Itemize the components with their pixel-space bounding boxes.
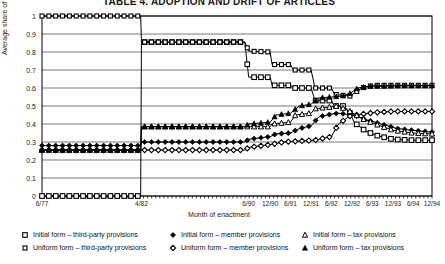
data-point-marker [142, 148, 147, 153]
data-point-marker [252, 136, 257, 141]
data-point-marker [258, 143, 263, 148]
data-point-marker [299, 138, 304, 143]
data-point-marker [293, 86, 298, 91]
legend-item[interactable]: Uniform form – third-party provisions [20, 241, 146, 254]
data-point-marker [23, 232, 28, 237]
data-point-marker [135, 194, 140, 199]
data-point-marker [302, 232, 307, 237]
data-point-marker [314, 86, 318, 90]
data-point-marker [218, 40, 222, 44]
data-point-marker [129, 194, 134, 199]
legend-item[interactable]: Initial form – member provisions [168, 228, 288, 241]
data-point-marker [423, 138, 428, 143]
legend-item[interactable]: Uniform form – tax provisions [300, 241, 404, 254]
data-point-marker [211, 40, 215, 44]
legend-column: Initial form – member provisionsUniform … [168, 228, 288, 254]
data-point-marker [245, 46, 249, 50]
data-point-marker [217, 148, 222, 153]
chart-legend: Initial form – third-party provisionsUni… [0, 228, 438, 260]
data-point-marker [347, 91, 352, 96]
data-point-marker [402, 138, 407, 143]
data-point-marker [149, 139, 154, 144]
data-point-marker [169, 139, 174, 144]
data-point-marker [108, 194, 113, 199]
data-point-marker [190, 139, 195, 144]
data-point-marker [176, 139, 181, 144]
series-line [42, 16, 432, 96]
data-point-marker [54, 14, 58, 18]
data-point-marker [313, 106, 318, 111]
data-point-marker [210, 139, 215, 144]
data-point-marker [149, 148, 154, 153]
data-point-marker [375, 133, 380, 138]
data-point-marker [299, 111, 304, 116]
data-point-marker [265, 75, 270, 80]
data-point-marker [279, 120, 284, 125]
data-point-marker [245, 62, 250, 67]
data-point-marker [238, 139, 243, 144]
data-point-marker [156, 148, 161, 153]
data-point-marker [252, 49, 256, 53]
legend-column: Initial form – tax provisionsUniform for… [300, 228, 404, 254]
data-point-marker [416, 138, 421, 143]
legend-marker-open-square-small-icon [20, 243, 30, 253]
data-point-marker [429, 109, 434, 114]
data-point-marker [307, 86, 312, 91]
data-point-marker [170, 40, 174, 44]
data-point-marker [293, 139, 298, 144]
data-point-marker [74, 14, 78, 18]
data-point-marker [423, 109, 428, 114]
legend-item[interactable]: Initial form – third-party provisions [20, 228, 146, 241]
data-point-marker [258, 135, 263, 140]
data-point-marker [156, 40, 160, 44]
data-point-marker [286, 120, 291, 125]
data-point-marker [306, 111, 311, 116]
data-point-marker [300, 68, 304, 72]
data-point-marker [286, 83, 291, 88]
data-point-marker [183, 148, 188, 153]
data-point-marker [129, 14, 133, 18]
data-point-marker [279, 63, 283, 67]
data-point-marker [74, 194, 79, 199]
data-point-marker [334, 125, 339, 130]
data-point-marker [409, 138, 414, 143]
data-point-marker [191, 40, 195, 44]
data-point-marker [88, 194, 93, 199]
legend-item[interactable]: Initial form – tax provisions [300, 228, 404, 241]
legend-label: Initial form – tax provisions [313, 231, 396, 238]
data-point-marker [81, 194, 86, 199]
data-point-marker [60, 194, 65, 199]
data-point-marker [347, 109, 352, 114]
legend-label: Uniform form – member provisions [181, 244, 288, 251]
data-point-marker [279, 131, 284, 136]
data-point-marker [115, 194, 120, 199]
data-point-marker [143, 40, 147, 44]
data-point-marker [156, 139, 161, 144]
data-point-marker [183, 139, 188, 144]
data-point-marker [170, 245, 175, 250]
legend-label: Initial form – third-party provisions [33, 231, 138, 238]
data-point-marker [299, 125, 304, 130]
legend-marker-filled-triangle-icon [300, 243, 310, 253]
data-point-marker [382, 135, 387, 140]
data-point-marker [204, 139, 209, 144]
data-point-marker [252, 144, 257, 149]
data-point-marker [238, 40, 242, 44]
data-point-marker [94, 194, 99, 199]
data-point-marker [142, 139, 147, 144]
data-point-marker [67, 14, 71, 18]
data-point-marker [122, 14, 126, 18]
series-line [42, 111, 432, 150]
data-point-marker [190, 148, 195, 153]
data-point-marker [238, 148, 243, 153]
series-line [42, 42, 432, 196]
data-point-marker [177, 40, 181, 44]
data-point-marker [354, 86, 359, 91]
data-point-marker [361, 117, 366, 122]
data-point-marker [197, 148, 202, 153]
legend-item[interactable]: Uniform form – member provisions [168, 241, 288, 254]
data-point-marker [286, 139, 291, 144]
data-point-marker [293, 128, 298, 133]
data-point-marker [340, 111, 345, 116]
